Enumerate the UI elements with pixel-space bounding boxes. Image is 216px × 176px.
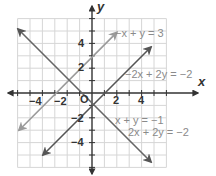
x-axis-label: x bbox=[197, 74, 206, 89]
y-tick-2: 2 bbox=[78, 61, 84, 73]
x-tick-2: 2 bbox=[113, 94, 119, 106]
x-tick-neg4: −4 bbox=[29, 95, 42, 107]
y-tick-neg4: −4 bbox=[71, 136, 84, 148]
equation-label-3: x + y = −1 bbox=[115, 114, 164, 126]
equation-label-1: −x + y = 3 bbox=[115, 27, 164, 39]
coordinate-plane: y x O −4 −2 2 4 4 2 −2 −4 −x + y = 3 −2x… bbox=[0, 0, 216, 176]
equation-label-2: −2x + 2y = −2 bbox=[125, 68, 192, 80]
line-neg-x-plus-y-eq-3 bbox=[19, 32, 117, 130]
equation-label-4: 2x + 2y = −2 bbox=[128, 126, 189, 138]
origin-label: O bbox=[80, 93, 89, 105]
y-axis-label: y bbox=[96, 0, 105, 14]
x-tick-neg2: −2 bbox=[54, 95, 67, 107]
y-tick-neg2: −2 bbox=[71, 112, 84, 124]
x-tick-4: 4 bbox=[138, 94, 145, 106]
y-tick-4: 4 bbox=[78, 37, 85, 49]
